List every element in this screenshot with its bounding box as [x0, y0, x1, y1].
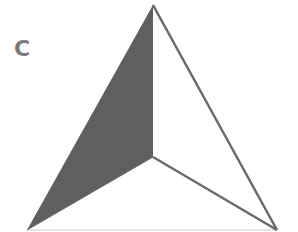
center-to-right-edge	[153, 157, 277, 230]
triangular-pyramid-diagram	[0, 0, 298, 232]
right-edge	[153, 5, 277, 230]
shaded-face	[27, 5, 153, 230]
